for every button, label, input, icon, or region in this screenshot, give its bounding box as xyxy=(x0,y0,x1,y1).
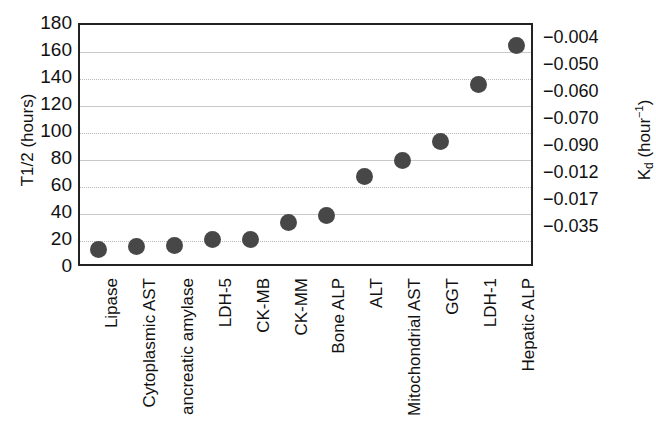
y-tick-label-left: 100 xyxy=(10,121,72,140)
x-axis-category-labels: LipaseCytoplasmic ASTancreatic amylaseLD… xyxy=(78,266,533,444)
data-point xyxy=(508,37,525,54)
gridline xyxy=(80,106,531,107)
gridline xyxy=(80,79,531,80)
chart-figure: T1/2 (hours) Kd (hour−1) 180160140120100… xyxy=(0,0,656,444)
x-tick-label-text: Hepatic ALP xyxy=(520,276,537,372)
x-tick-label-text: Mitochondrial AST xyxy=(406,276,423,416)
x-tick-label: Lipase xyxy=(103,224,120,276)
x-tick-label: Mitochondrial AST xyxy=(406,136,423,276)
y-tick-label-right: −0.017 xyxy=(543,190,599,208)
y-tick-label-right: −0.060 xyxy=(543,82,599,100)
y-tick-label-left: 60 xyxy=(10,175,72,194)
y-axis-ticks-left: 180160140120100806040200 xyxy=(0,23,72,266)
data-point xyxy=(470,76,487,93)
y-tick-label-left: 80 xyxy=(10,148,72,167)
data-point xyxy=(356,168,373,185)
x-tick-label: ALT xyxy=(368,244,385,276)
x-tick-label: Cytoplasmic AST xyxy=(141,145,158,276)
x-tick-label: CK-MB xyxy=(255,219,272,276)
x-tick-label: LDH-5 xyxy=(217,225,234,276)
x-tick-label-text: Bone ALP xyxy=(330,276,347,354)
y-tick-label-right: −0.035 xyxy=(543,217,599,235)
x-tick-label-text: Cytoplasmic AST xyxy=(141,276,158,407)
y-tick-label-right: −0.012 xyxy=(543,163,599,181)
y-tick-label-left: 20 xyxy=(10,229,72,248)
y-tick-label-left: 160 xyxy=(10,40,72,59)
y-tick-label-left: 40 xyxy=(10,202,72,221)
x-tick-label-text: ancreatic amylase xyxy=(179,276,196,415)
gridline xyxy=(80,133,531,134)
y-tick-label-right: −0.090 xyxy=(543,136,599,154)
x-tick-label-text: CK-MB xyxy=(255,276,272,333)
x-tick-label: GGT xyxy=(444,237,461,276)
x-tick-label: LDH-1 xyxy=(482,225,499,276)
x-tick-label-text: LDH-5 xyxy=(217,276,234,327)
x-tick-label: CK-MM xyxy=(293,216,310,276)
gridline xyxy=(80,52,531,53)
y-tick-label-right: −0.004 xyxy=(543,28,599,46)
x-tick-label: Bone ALP xyxy=(330,198,347,276)
x-tick-label-text: Lipase xyxy=(103,276,120,328)
x-tick-label-text: GGT xyxy=(444,276,461,315)
y-axis-ticks-right: −0.004−0.050−0.060−0.070−0.090−0.012−0.0… xyxy=(533,23,643,266)
x-tick-label: ancreatic amylase xyxy=(179,137,196,276)
y-tick-label-left: 180 xyxy=(10,13,72,32)
y-tick-label-right: −0.050 xyxy=(543,55,599,73)
kd-subscript: d xyxy=(642,162,656,169)
y-tick-label-left: 120 xyxy=(10,94,72,113)
x-tick-label: Hepatic ALP xyxy=(520,180,537,276)
data-point xyxy=(432,133,449,150)
x-tick-label-text: LDH-1 xyxy=(482,276,499,327)
y-tick-label-left: 0 xyxy=(10,256,72,275)
y-tick-label-right: −0.070 xyxy=(543,109,599,127)
x-tick-label-text: ALT xyxy=(368,276,385,308)
x-tick-label-text: CK-MM xyxy=(293,276,310,336)
y-tick-label-left: 140 xyxy=(10,67,72,86)
